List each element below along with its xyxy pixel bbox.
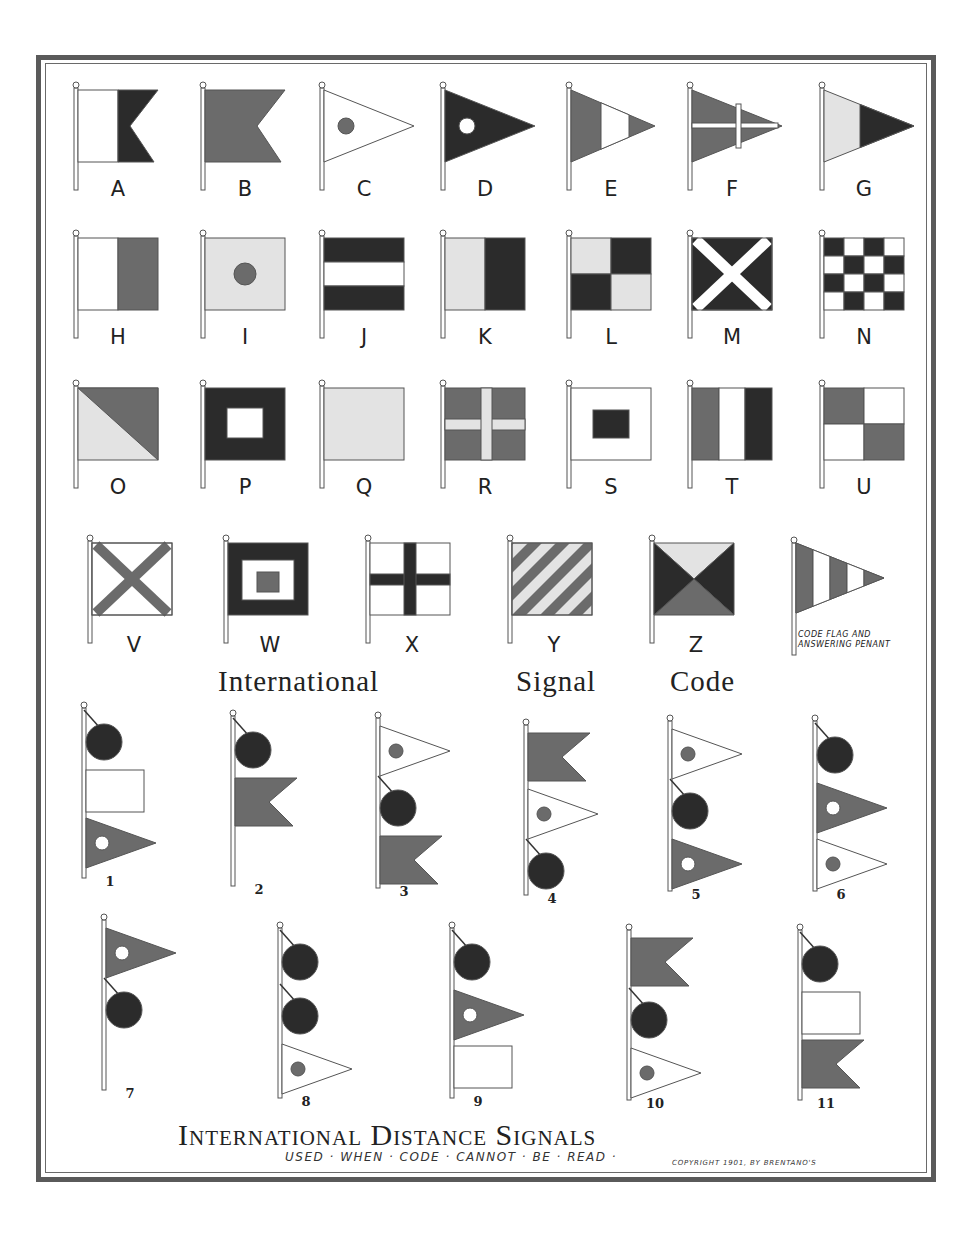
flag-label-b: B	[225, 177, 265, 201]
flag-j	[319, 230, 404, 338]
flag-label-m: M	[712, 325, 752, 349]
flag-label-d: D	[465, 177, 505, 201]
distance-signals-title: International Distance Signals	[178, 1118, 596, 1152]
flag-v	[87, 535, 172, 643]
flag-label-i: I	[225, 325, 265, 349]
code-flag-caption-line2: ANSWERING PENANT	[798, 640, 890, 650]
flag-s	[566, 380, 651, 488]
flag-label-a: A	[98, 177, 138, 201]
flag-label-z: Z	[676, 633, 716, 657]
flag-a	[73, 82, 158, 190]
flag-c	[319, 82, 414, 190]
flag-label-u: U	[844, 475, 884, 499]
copyright-notice: COPYRIGHT 1901, BY BRENTANO'S	[672, 1159, 817, 1167]
flag-e	[566, 82, 655, 190]
flag-label-f: F	[712, 177, 752, 201]
distance-signal-7	[101, 914, 176, 1090]
distance-signal-label-11: 11	[811, 1096, 841, 1111]
flag-k	[440, 230, 525, 338]
flag-p	[200, 380, 285, 488]
flag-label-p: P	[225, 475, 265, 499]
distance-signal-8	[277, 922, 352, 1098]
flag-label-e: E	[591, 177, 631, 201]
flag-label-r: R	[465, 475, 505, 499]
distance-signal-5	[667, 715, 742, 891]
flag-u	[819, 380, 904, 488]
flag-w	[223, 535, 308, 643]
flag-x	[365, 535, 450, 643]
flag-label-w: W	[250, 633, 290, 657]
flag-n	[819, 230, 904, 338]
flag-r	[440, 380, 525, 488]
flag-label-k: K	[465, 325, 505, 349]
flag-y	[428, 535, 682, 643]
flag-label-l: L	[591, 325, 631, 349]
flag-label-g: G	[844, 177, 884, 201]
flag-l	[566, 230, 651, 338]
distance-signal-label-6: 6	[826, 887, 856, 902]
distance-signal-11	[797, 924, 864, 1100]
code-flag-caption-line1: CODE FLAG AND	[798, 630, 890, 640]
flag-m	[687, 230, 772, 338]
distance-signal-label-7: 7	[115, 1086, 145, 1101]
distance-signal-2	[230, 710, 297, 886]
distance-signal-label-10: 10	[640, 1096, 670, 1111]
flag-o	[73, 380, 158, 488]
distance-signal-label-1: 1	[95, 874, 125, 889]
flag-t	[687, 380, 772, 488]
flag-label-n: N	[844, 325, 884, 349]
flag-h	[73, 230, 158, 338]
flag-label-y: Y	[534, 633, 574, 657]
flag-f	[687, 82, 782, 190]
flag-q	[319, 380, 404, 488]
flag-z	[649, 535, 734, 643]
flag-label-j: J	[344, 325, 384, 349]
flag-g	[819, 82, 914, 190]
flag-label-s: S	[591, 475, 631, 499]
distance-signal-3	[375, 712, 450, 888]
distance-signal-label-2: 2	[244, 882, 274, 897]
distance-signal-label-8: 8	[291, 1094, 321, 1109]
code-flag-caption: CODE FLAG AND ANSWERING PENANT	[798, 630, 890, 650]
distance-signal-9	[449, 922, 524, 1098]
signal-chart: ABCDEFGHIJKLMNOPQRSTUVWXYZ1234567891011 …	[0, 0, 970, 1243]
title-word-international: International	[218, 665, 379, 698]
distance-signal-1	[81, 702, 156, 878]
flag-label-x: X	[392, 633, 432, 657]
distance-signal-6	[812, 715, 887, 891]
flag-label-t: T	[712, 475, 752, 499]
distance-signal-4	[523, 719, 598, 895]
flag-label-v: V	[114, 633, 154, 657]
distance-signal-10	[626, 924, 701, 1100]
flag-i	[200, 230, 285, 338]
flag-label-c: C	[344, 177, 384, 201]
distance-signal-label-9: 9	[463, 1094, 493, 1109]
flag-d	[440, 82, 535, 190]
distance-signal-label-3: 3	[389, 884, 419, 899]
flag-b	[200, 82, 285, 190]
flag-label-o: O	[98, 475, 138, 499]
distance-signal-label-4: 4	[537, 891, 567, 906]
flag-label-h: H	[98, 325, 138, 349]
flag-label-q: Q	[344, 475, 384, 499]
title-word-signal: Signal	[516, 665, 596, 698]
distance-signals-subtitle: USED · WHEN · CODE · CANNOT · BE · READ …	[285, 1150, 617, 1164]
distance-signal-label-5: 5	[681, 887, 711, 902]
title-word-code: Code	[670, 665, 735, 698]
